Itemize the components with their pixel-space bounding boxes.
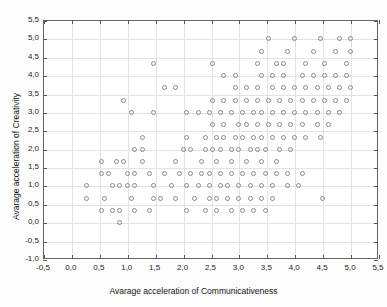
data-point: [344, 73, 349, 78]
data-point: [322, 73, 327, 78]
data-point: [125, 171, 130, 176]
data-point: [333, 49, 338, 54]
data-point: [244, 85, 249, 90]
data-point: [218, 171, 223, 176]
y-tick-mark: [374, 150, 378, 151]
x-tick-mark: [44, 255, 45, 259]
x-tick-mark: [323, 20, 324, 24]
data-point: [173, 196, 178, 201]
data-point: [348, 49, 353, 54]
data-point: [162, 85, 167, 90]
data-point: [188, 171, 193, 176]
data-point: [236, 196, 241, 201]
data-point: [140, 147, 145, 152]
data-point: [132, 208, 137, 213]
x-tick-mark: [156, 255, 157, 259]
data-point: [259, 73, 264, 78]
x-tick-mark: [295, 255, 296, 259]
data-point: [236, 147, 241, 152]
data-point: [221, 135, 226, 140]
x-tick-mark: [212, 255, 213, 259]
data-point: [270, 196, 275, 201]
data-point: [177, 171, 182, 176]
data-point: [203, 147, 208, 152]
data-point: [318, 36, 323, 41]
data-point: [240, 171, 245, 176]
y-tick-mark: [374, 131, 378, 132]
data-point: [259, 135, 264, 140]
data-point: [99, 159, 104, 164]
x-tick-mark: [128, 20, 129, 24]
x-tick-mark: [239, 255, 240, 259]
data-point: [320, 196, 325, 201]
data-point: [240, 208, 245, 213]
data-point: [281, 73, 286, 78]
x-tick-mark: [212, 20, 213, 24]
data-point: [311, 49, 316, 54]
data-point: [251, 110, 256, 115]
data-point: [196, 183, 201, 188]
data-point: [255, 122, 260, 127]
data-point: [233, 98, 238, 103]
data-point: [285, 49, 290, 54]
x-tick-mark: [239, 20, 240, 24]
x-tick-label: 5,5: [358, 263, 387, 272]
data-point: [192, 196, 197, 201]
gridline-horizontal: [44, 95, 377, 96]
y-tick-mark: [374, 223, 378, 224]
y-tick-mark: [374, 39, 378, 40]
gridline-horizontal: [44, 76, 377, 77]
data-point: [315, 122, 320, 127]
data-point: [288, 147, 293, 152]
gridline-horizontal: [44, 39, 377, 40]
data-point: [210, 61, 215, 66]
data-point: [203, 208, 208, 213]
data-point: [117, 220, 122, 225]
y-tick-mark: [43, 260, 47, 261]
y-tick-label: -1,0: [5, 254, 39, 263]
data-point: [229, 110, 234, 115]
y-axis-title: Avarage acceleration of Creativity: [11, 93, 21, 220]
y-tick-mark: [374, 58, 378, 59]
x-tick-mark: [267, 20, 268, 24]
data-point: [210, 98, 215, 103]
data-point: [188, 147, 193, 152]
scatter-plot-figure: -0,50,00,51,01,52,02,53,03,54,04,55,05,5…: [0, 0, 387, 307]
data-point: [259, 183, 264, 188]
data-point: [248, 147, 253, 152]
data-point: [248, 183, 253, 188]
data-point: [292, 85, 297, 90]
data-point: [218, 147, 223, 152]
data-point: [221, 73, 226, 78]
data-point: [288, 122, 293, 127]
data-point: [207, 110, 212, 115]
data-point: [337, 85, 342, 90]
data-point: [300, 171, 305, 176]
data-point: [270, 135, 275, 140]
data-point: [348, 85, 353, 90]
data-point: [285, 183, 290, 188]
y-tick-mark: [43, 168, 47, 169]
data-point: [266, 98, 271, 103]
data-point: [270, 73, 275, 78]
data-point: [292, 135, 297, 140]
data-point: [311, 98, 316, 103]
data-point: [84, 183, 89, 188]
y-tick-mark: [374, 186, 378, 187]
data-point: [285, 171, 290, 176]
data-point: [240, 110, 245, 115]
data-point: [132, 171, 137, 176]
data-point: [221, 98, 226, 103]
data-point: [236, 122, 241, 127]
x-tick-mark: [379, 20, 380, 24]
data-point: [162, 171, 167, 176]
data-point: [151, 61, 156, 66]
y-tick-mark: [43, 150, 47, 151]
data-point: [292, 110, 297, 115]
x-tick-mark: [267, 255, 268, 259]
data-point: [158, 196, 163, 201]
data-point: [266, 36, 271, 41]
data-point: [326, 122, 331, 127]
data-point: [311, 73, 316, 78]
data-point: [277, 98, 282, 103]
